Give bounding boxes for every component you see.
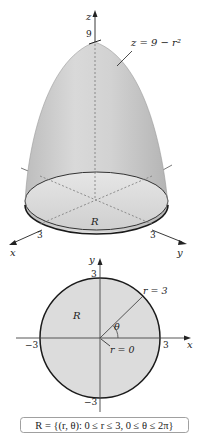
radius-label: r = 3 xyxy=(143,285,168,296)
y-tick-label-3d: 3 xyxy=(150,230,156,240)
y-axis-front xyxy=(152,230,182,242)
x-axis-arrow-icon xyxy=(9,240,17,245)
paraboloid-figure: z 9 z = 9 − r² R 3 3 x y y 3 −3 3 −3 x R… xyxy=(0,0,204,436)
paraboloid-3d: z 9 z = 9 − r² R 3 3 x y xyxy=(9,10,187,258)
polar-region-2d: y 3 −3 3 −3 x R r = 3 θ r = 0 xyxy=(16,254,193,412)
x-tick-label-3d: 3 xyxy=(37,230,43,240)
z-axis-label: z xyxy=(85,11,92,22)
y-axis-label-3d: y xyxy=(176,247,183,258)
x-tick-pos-label: 3 xyxy=(163,340,169,350)
region-definition-caption: R = {(r, θ): 0 ≤ r ≤ 3, 0 ≤ θ ≤ 2π} xyxy=(21,418,189,433)
caption-text: R = {(r, θ): 0 ≤ r ≤ 3, 0 ≤ θ ≤ 2π} xyxy=(35,420,173,432)
y-tick-neg-label: −3 xyxy=(84,397,98,407)
theta-label: θ xyxy=(114,321,120,332)
y-axis-2d-arrow-icon xyxy=(98,258,103,265)
origin-label: r = 0 xyxy=(110,344,135,355)
x-axis-label-3d: x xyxy=(10,247,16,258)
surface-equation-label: z = 9 − r² xyxy=(130,37,181,48)
z-tick-label: 9 xyxy=(86,29,92,39)
y-tick-pos-label: 3 xyxy=(91,269,97,279)
region-label-2d: R xyxy=(72,310,81,321)
x-tick-neg-label: −3 xyxy=(25,340,39,350)
x-axis-label-2d: x xyxy=(187,339,193,350)
z-axis-arrow-icon xyxy=(93,10,98,17)
y-axis-arrow-icon xyxy=(178,240,187,245)
y-axis-label-2d: y xyxy=(88,254,95,265)
region-label-3d: R xyxy=(90,216,99,227)
